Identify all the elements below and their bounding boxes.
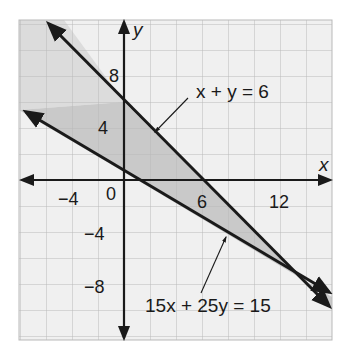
inequality-graph: y x 8 4 −4 0 −4 −8 6 12 x + y = 6 15x + … [0,0,349,357]
tick-y-neg8: −8 [84,277,105,297]
tick-y-4: 4 [98,118,108,138]
equation-label-1: x + y = 6 [196,81,269,102]
tick-x-6: 6 [197,192,207,212]
tick-x-12: 12 [269,192,289,212]
tick-y-8: 8 [109,66,119,86]
equation-label-2: 15x + 25y = 15 [145,295,271,316]
x-axis-label: x [318,154,330,175]
tick-y-neg4: −4 [84,224,105,244]
tick-x-neg4: −4 [58,189,79,209]
y-axis-label: y [131,19,144,40]
tick-origin: 0 [106,184,116,204]
